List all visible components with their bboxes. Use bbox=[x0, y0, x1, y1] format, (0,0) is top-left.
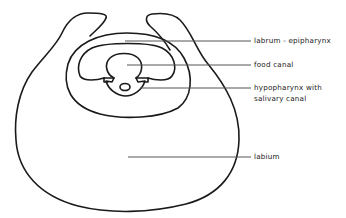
label-labium: labium bbox=[254, 152, 280, 161]
label-hypopharynx-line1: hypopharynx with bbox=[254, 83, 322, 92]
mouthparts-cross-section-diagram bbox=[0, 0, 346, 218]
epipharynx-inner-outline bbox=[79, 44, 175, 81]
label-food-canal: food canal bbox=[254, 60, 294, 69]
label-labrum-epipharynx: labrum - epipharynx bbox=[254, 36, 331, 45]
hypopharynx-outline bbox=[104, 78, 148, 96]
label-hypopharynx-line2: salivary canal bbox=[254, 94, 306, 103]
salivary-canal bbox=[120, 84, 130, 91]
labium-left-lobe-inner bbox=[90, 18, 106, 36]
food-canal-outline bbox=[107, 54, 142, 79]
